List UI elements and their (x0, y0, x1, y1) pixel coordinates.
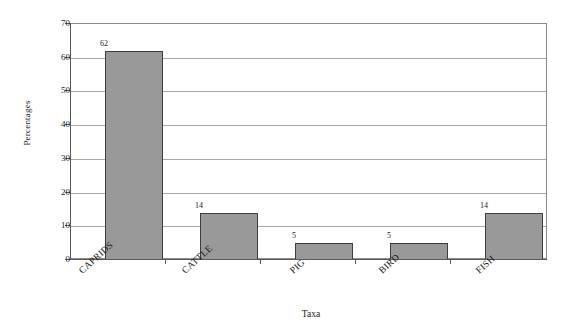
x-axis-title: Taxa (0, 309, 578, 319)
x-tick-mark-2 (260, 259, 261, 264)
y-tick-label-60: 60 (46, 53, 70, 62)
bar-fish (485, 213, 543, 260)
y-axis-ticks: 70 60 50 40 30 20 10 0 (38, 23, 70, 259)
y-axis-title: Percentages (22, 78, 32, 168)
x-tick-mark-3 (355, 259, 356, 264)
plot-area (70, 23, 547, 259)
x-tick-mark-1 (165, 259, 166, 264)
bar-pig (295, 243, 353, 260)
y-tick-label-20: 20 (46, 188, 70, 197)
bar-value-pig: 5 (274, 232, 314, 240)
y-tick-label-0: 0 (46, 255, 70, 264)
bar-value-caprids: 62 (84, 40, 124, 48)
x-axis-title-text: Taxa (302, 309, 320, 319)
bar-caprids (105, 51, 163, 260)
x-tick-mark-4 (450, 259, 451, 264)
y-tick-label-10: 10 (46, 221, 70, 230)
y-tick-label-30: 30 (46, 154, 70, 163)
bar-value-cattle: 14 (179, 202, 219, 210)
bar-value-fish: 14 (464, 202, 504, 210)
bar-value-bird: 5 (369, 232, 409, 240)
y-axis-line (70, 23, 71, 259)
x-axis-line (70, 259, 547, 260)
y-tick-label-70: 70 (46, 19, 70, 28)
bar-chart-figure: 70 60 50 40 30 20 10 0 62 14 5 5 14 CAPR… (0, 0, 578, 334)
y-tick-label-50: 50 (46, 86, 70, 95)
y-tick-label-40: 40 (46, 120, 70, 129)
